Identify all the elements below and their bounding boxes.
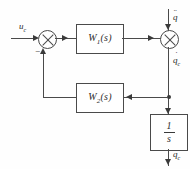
signal-label-input: uс	[19, 22, 26, 33]
arrowhead-w1-input	[62, 35, 68, 41]
summing-junction-left	[38, 30, 57, 49]
signal-label-rate: ˙ qс	[173, 56, 180, 67]
block-diagram: uс − W1(s) ¨ q ˙ qс W2(s)	[0, 0, 190, 169]
arrowhead-w2-input	[126, 94, 132, 100]
block-integrator[interactable]: 1 s	[150, 114, 188, 151]
block-w1-label: W1(s)	[88, 32, 111, 46]
arrowhead-sum-right-input	[148, 35, 154, 41]
wire-w2-to-corner	[43, 97, 76, 98]
wire-rate-main	[168, 47, 169, 115]
arrowhead-output	[165, 159, 171, 165]
wire-input	[11, 38, 35, 39]
signal-label-disturbance: ¨ q	[173, 13, 178, 24]
block-w2[interactable]: W2(s)	[76, 83, 124, 113]
output-subscript: с	[178, 155, 181, 161]
arrowhead-feedback-into-sum	[40, 48, 46, 54]
disturbance-dots: ¨	[173, 8, 178, 17]
integrator-fraction: 1 s	[164, 121, 175, 145]
block-w1[interactable]: W1(s)	[76, 24, 124, 54]
integrator-denominator: s	[164, 134, 174, 145]
signal-label-output: qс	[173, 150, 180, 161]
summing-junction-right	[160, 30, 179, 49]
integrator-numerator: 1	[164, 121, 175, 132]
rate-subscript: с	[178, 61, 181, 67]
wire-corner-to-sum	[43, 52, 44, 97]
block-w2-label: W2(s)	[88, 91, 111, 105]
rate-dots: ˙	[173, 51, 180, 60]
wire-w1-to-sum	[122, 38, 162, 39]
input-subscript: с	[24, 27, 27, 33]
